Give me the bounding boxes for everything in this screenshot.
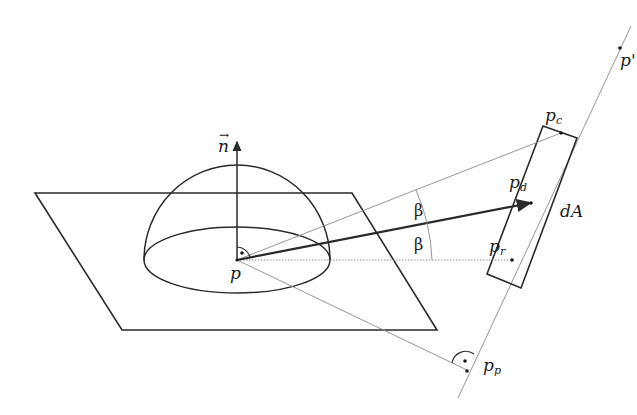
ray-p-to-pp [237, 260, 467, 370]
point-pd-dot [529, 201, 533, 205]
diagram-canvas: → n p p' pc pd pr pp dA β β [0, 0, 637, 415]
right-angle-dot-pp [463, 359, 467, 363]
point-pd-label: pd [509, 174, 527, 193]
angle-lower-label: β [414, 237, 423, 253]
angle-upper-label: β [414, 203, 423, 219]
area-element-label: dA [560, 203, 583, 220]
point-p-label: p [230, 265, 241, 282]
point-pr-dot [510, 258, 514, 262]
ray-p-to-pc [237, 133, 561, 260]
point-p-dot [235, 258, 238, 261]
point-pr-label: pr [489, 238, 505, 257]
diagram-svg [0, 0, 637, 415]
point-pc-label: pc [545, 107, 562, 126]
right-angle-marker-pp [452, 351, 474, 363]
normal-label: → n [218, 138, 229, 155]
right-angle-dot-p [240, 251, 244, 255]
point-pc-dot [559, 131, 563, 135]
point-pp-label: pp [483, 357, 501, 376]
point-p-prime-label: p' [620, 52, 636, 69]
tangent-plane [35, 193, 437, 330]
point-pp-dot [465, 369, 469, 373]
